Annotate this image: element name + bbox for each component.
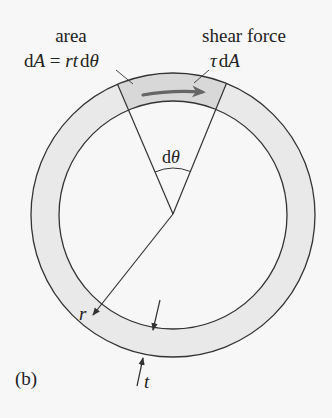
radius-label: r <box>79 303 87 324</box>
tube-wall-ring <box>31 73 315 357</box>
thin-tube-torsion-diagram: area dA = rtdθ shear force τdA dθ r t (b… <box>0 0 332 418</box>
thickness-label: t <box>144 371 150 392</box>
shear-force-equation-label: τdA <box>210 50 240 71</box>
radius-arrow <box>93 214 173 315</box>
angle-arc <box>155 168 191 172</box>
inner-circle <box>59 101 287 329</box>
thickness-arrow-inner <box>153 300 160 330</box>
area-title-label: area <box>55 25 87 46</box>
area-equation-label: dA = rtdθ <box>24 50 99 71</box>
thickness-arrow-outer <box>137 358 143 386</box>
shear-force-title-label: shear force <box>202 25 286 46</box>
panel-label: (b) <box>15 368 37 390</box>
angle-label: dθ <box>162 147 180 167</box>
